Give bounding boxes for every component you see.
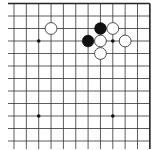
- go-board[interactable]: [0, 0, 155, 149]
- star-point-icon: [111, 39, 115, 43]
- white-stone-icon[interactable]: [107, 23, 119, 35]
- grid-lines: [8, 4, 150, 150]
- star-point-icon: [37, 114, 41, 118]
- white-stone-icon[interactable]: [119, 35, 131, 47]
- white-stone-icon[interactable]: [95, 35, 107, 47]
- star-point-icon: [111, 114, 115, 118]
- star-point-icon: [37, 39, 41, 43]
- black-stone-icon[interactable]: [82, 35, 94, 47]
- white-stone-icon[interactable]: [45, 23, 57, 35]
- black-stone-icon[interactable]: [95, 23, 107, 35]
- white-stone-icon[interactable]: [95, 48, 107, 60]
